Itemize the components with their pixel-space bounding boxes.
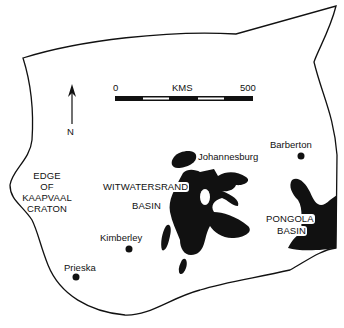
- scale-start-label: 0: [113, 83, 118, 93]
- kimberley-marker: [126, 246, 133, 253]
- witwatersrand-label: WITWATERSRAND: [102, 182, 189, 192]
- scale-end-label: 500: [240, 83, 256, 93]
- town-label-barberton: Barberton: [270, 140, 312, 150]
- map-canvas: [0, 0, 344, 328]
- edge-of-craton-label: EDGE OF KAAPVAAL CRATON: [18, 170, 76, 214]
- town-label-kimberley: Kimberley: [100, 233, 142, 243]
- witwatersrand-basin-shape: [161, 151, 250, 274]
- basin-hole: [200, 189, 210, 205]
- north-label: N: [67, 127, 74, 137]
- town-label-johannesburg: Johannesburg: [198, 152, 258, 162]
- pongola-basin-label: BASIN: [276, 226, 307, 236]
- town-label-prieska: Prieska: [64, 263, 96, 273]
- prieska-marker: [73, 274, 80, 281]
- north-arrow-icon: [68, 84, 76, 124]
- scale-bar: [115, 96, 253, 101]
- scale-unit-label: KMS: [172, 83, 193, 93]
- pongola-label: PONGOLA: [265, 214, 315, 224]
- witwatersrand-basin-label: BASIN: [132, 201, 161, 211]
- barberton-marker: [298, 153, 305, 160]
